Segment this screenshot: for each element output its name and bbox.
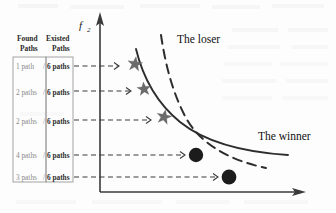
figure-canvas: f 2 The loser The winner Found <box>0 0 336 213</box>
y-axis-label-subscript: 2 <box>87 26 91 34</box>
table-row: 2 paths / 6 paths <box>16 88 70 97</box>
found-paths-value: 2 paths <box>16 117 37 126</box>
paths-table: Found Paths Existed Paths 1 path / 6 pat… <box>13 34 73 182</box>
leader-arrows <box>74 63 218 181</box>
existed-paths-value: 6 paths <box>47 88 70 97</box>
found-paths-value: 3 paths <box>16 173 37 182</box>
found-paths-value: 4 paths <box>16 151 37 160</box>
star-marker-1 <box>127 56 144 72</box>
loser-curve <box>161 35 266 168</box>
table-row: 2 paths / 6 paths <box>16 117 70 126</box>
existed-paths-header-line1: Existed <box>46 34 70 43</box>
y-axis-label-text: f <box>79 19 84 31</box>
pareto-front-diagram: f 2 The loser The winner Found <box>0 0 336 213</box>
existed-paths-header-line2: Paths <box>52 44 70 53</box>
loser-marker-group <box>189 148 237 185</box>
found-paths-header-line1: Found <box>17 34 38 43</box>
found-paths-value: 2 paths <box>16 88 37 97</box>
loser-annotation: The loser <box>177 33 220 45</box>
dot-marker-1 <box>189 148 203 162</box>
found-paths-header-line2: Paths <box>20 44 38 53</box>
dot-marker-2 <box>222 170 237 185</box>
existed-paths-value: 6 paths <box>47 62 70 71</box>
winner-annotation: The winner <box>258 130 311 142</box>
table-row: 4 paths / 6 paths <box>16 151 70 160</box>
table-row: 3 paths / 6 paths <box>16 173 70 182</box>
table-row: 1 path / 6 paths <box>16 62 70 71</box>
existed-paths-value: 6 paths <box>47 151 70 160</box>
found-paths-value: 1 path <box>16 62 34 71</box>
y-axis-label: f 2 <box>79 19 91 34</box>
star-marker-3 <box>155 108 172 125</box>
existed-paths-value: 6 paths <box>47 173 70 182</box>
existed-paths-value: 6 paths <box>47 117 70 126</box>
